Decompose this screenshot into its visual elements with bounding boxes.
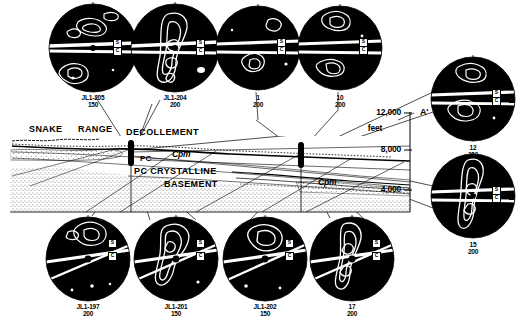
stereonet-jl1-205 bbox=[49, 2, 137, 92]
caption-net-jl1-197: JL1-197 200 bbox=[77, 304, 100, 318]
scale-tick-4000: 4,000 bbox=[381, 185, 401, 194]
c-label-net-12: C bbox=[492, 97, 501, 106]
c-label-net-17: C bbox=[372, 252, 381, 261]
c-label-net-jl1-201: C bbox=[196, 252, 205, 261]
stereonet-17 bbox=[310, 215, 394, 301]
stereonet-10 bbox=[298, 4, 382, 90]
stereonet-jl1-204 bbox=[131, 2, 219, 92]
s-label-net-jl1-202: S bbox=[285, 239, 294, 248]
sample-id: JL1-205 bbox=[82, 94, 105, 101]
west-fault-marker bbox=[128, 140, 134, 166]
stereonet-jl1-201 bbox=[134, 215, 218, 301]
figure-canvas bbox=[0, 0, 521, 333]
label-basement-2: BASEMENT bbox=[164, 180, 218, 189]
sample-id: JL1-202 bbox=[254, 303, 277, 310]
cross-section-body bbox=[10, 112, 412, 212]
east-fault-marker bbox=[298, 142, 304, 168]
sample-id: JL1-197 bbox=[77, 303, 100, 310]
sample-id: 15 bbox=[470, 241, 477, 248]
label-decollement: DECOLLEMENT bbox=[126, 128, 199, 137]
label-snake: SNAKE bbox=[29, 125, 63, 134]
sample-count: 200 bbox=[164, 102, 187, 109]
label-pc: PC bbox=[140, 155, 152, 163]
sample-count: 200 bbox=[77, 311, 100, 318]
stereonet-12 bbox=[431, 55, 515, 141]
sample-id: JL1-201 bbox=[165, 303, 188, 310]
caption-net-jl1-204: JL1-204 200 bbox=[164, 95, 187, 109]
sample-id: 17 bbox=[349, 303, 356, 310]
sample-count: 200 bbox=[468, 249, 478, 256]
s-label-net-17: S bbox=[372, 239, 381, 248]
scale-tick-8000: 8,000 bbox=[381, 145, 401, 154]
sample-count: 150 bbox=[165, 311, 188, 318]
c-label-net-jl1-197: C bbox=[108, 252, 117, 261]
sample-id: 12 bbox=[470, 144, 477, 151]
c-label-net-jl1-205: C bbox=[113, 47, 122, 56]
sample-count: 150 bbox=[254, 311, 277, 318]
c-label-net-10: C bbox=[359, 46, 368, 55]
caption-net-jl1-202: JL1-202 150 bbox=[254, 304, 277, 318]
c-label-net-15: C bbox=[492, 194, 501, 203]
caption-net-10: 10 200 bbox=[335, 95, 345, 109]
sample-id: 1 bbox=[256, 94, 259, 101]
stereonet-15 bbox=[431, 152, 515, 238]
scale-units: feet bbox=[368, 124, 382, 133]
sample-count: 200 bbox=[253, 102, 263, 109]
sample-count: 200 bbox=[335, 102, 345, 109]
stereonet-jl1-202 bbox=[223, 215, 307, 301]
sample-count: 150 bbox=[82, 102, 105, 109]
caption-net-12: 12 200 bbox=[468, 145, 478, 159]
stereonet-1 bbox=[216, 4, 300, 90]
sample-id: JL1-204 bbox=[164, 94, 187, 101]
label-range: RANGE bbox=[78, 125, 113, 134]
caption-net-jl1-201: JL1-201 150 bbox=[165, 304, 188, 318]
label-section-end: A' bbox=[420, 108, 428, 117]
s-label-net-jl1-197: S bbox=[108, 239, 117, 248]
label-cpm-lower: Cpm bbox=[318, 178, 336, 187]
c-label-net-1: C bbox=[277, 46, 286, 55]
scale-tick-12000: 12,000 bbox=[376, 108, 401, 117]
sample-id: 10 bbox=[337, 94, 344, 101]
caption-net-15: 15 200 bbox=[468, 242, 478, 256]
label-basement-1: PC CRYSTALLINE bbox=[134, 167, 217, 176]
c-label-net-jl1-204: C bbox=[196, 47, 205, 56]
sample-count: 200 bbox=[347, 311, 357, 318]
stereonet-jl1-197 bbox=[46, 215, 130, 301]
label-cpm-upper: Cpm bbox=[172, 150, 190, 159]
s-label-net-jl1-201: S bbox=[196, 239, 205, 248]
caption-net-1: 1 200 bbox=[253, 95, 263, 109]
geologic-cross-section-figure: S C S C S C S C S C S C S C S C S C S C … bbox=[0, 0, 521, 333]
caption-net-jl1-205: JL1-205 150 bbox=[82, 95, 105, 109]
caption-net-17: 17 200 bbox=[347, 304, 357, 318]
c-label-net-jl1-202: C bbox=[285, 252, 294, 261]
sample-count: 200 bbox=[468, 152, 478, 159]
